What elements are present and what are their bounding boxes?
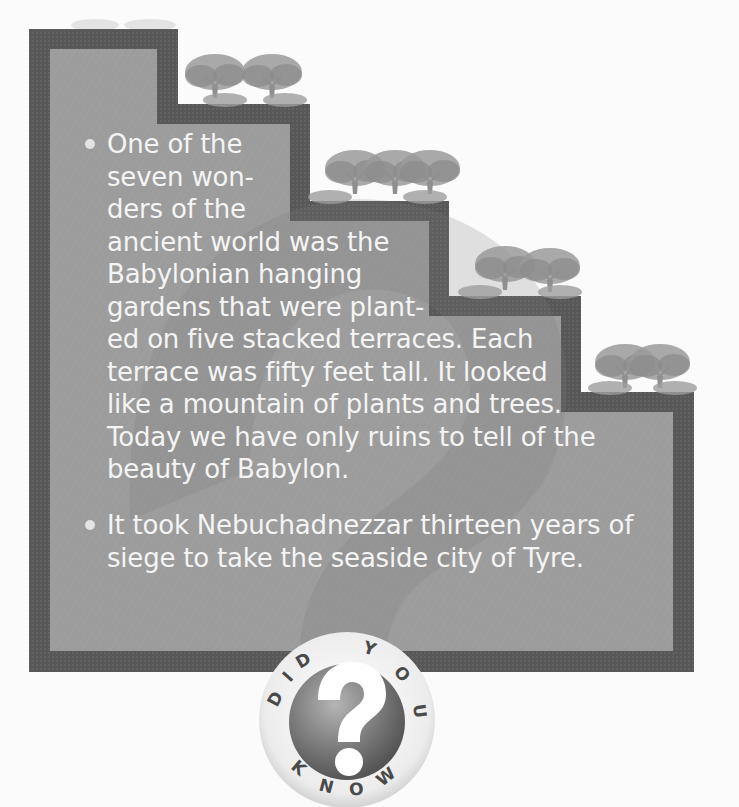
terrace-panel-graphic: D I D Y O U K N O W [0,0,739,807]
badge-letter-o2: O [348,778,365,800]
badge-letter-u: U [409,703,431,719]
tree-icon [185,54,307,107]
tree-icon [588,344,697,395]
did-you-know-badge: D I D Y O U K N O W [259,632,435,807]
tree-icon [308,150,460,204]
